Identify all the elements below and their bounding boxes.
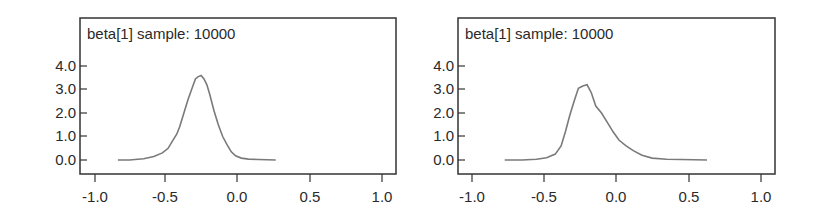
x-tick-label: -1.0 (459, 188, 485, 205)
panel-title: beta[1] sample: 10000 (87, 25, 235, 42)
y-tick-label: 0.0 (55, 151, 76, 168)
y-tick-label: 3.0 (55, 80, 76, 97)
x-axis: -1.0 -0.5 0.0 0.5 1.0 (82, 174, 392, 205)
panel-title: beta[1] sample: 10000 (465, 25, 613, 42)
density-curve (505, 85, 707, 160)
x-axis: -1.0 -0.5 0.0 0.5 1.0 (459, 174, 771, 205)
x-tick-label: 0.0 (227, 188, 248, 205)
x-tick-label: 1.0 (751, 188, 772, 205)
x-tick-label: 0.5 (300, 188, 321, 205)
y-tick-label: 1.0 (55, 127, 76, 144)
y-tick-label: 0.0 (433, 151, 454, 168)
y-tick-label: 4.0 (433, 57, 454, 74)
y-axis: 4.0 3.0 2.0 1.0 0.0 (433, 57, 465, 168)
y-tick-label: 2.0 (55, 104, 76, 121)
y-tick-label: 1.0 (433, 127, 454, 144)
density-panel-right: beta[1] sample: 10000 4.0 3.0 2.0 1.0 0.… (433, 18, 775, 205)
x-tick-label: 0.5 (679, 188, 700, 205)
x-tick-label: -1.0 (82, 188, 108, 205)
density-curve (118, 75, 276, 160)
x-tick-label: 1.0 (372, 188, 393, 205)
density-panel-left: beta[1] sample: 10000 4.0 3.0 2.0 1.0 0.… (55, 18, 396, 205)
y-axis: 4.0 3.0 2.0 1.0 0.0 (55, 57, 87, 168)
chart-canvas: beta[1] sample: 10000 4.0 3.0 2.0 1.0 0.… (0, 0, 818, 219)
y-tick-label: 4.0 (55, 57, 76, 74)
x-tick-label: 0.0 (606, 188, 627, 205)
x-tick-label: -0.5 (152, 188, 178, 205)
x-tick-label: -0.5 (531, 188, 557, 205)
y-tick-label: 3.0 (433, 80, 454, 97)
y-tick-label: 2.0 (433, 104, 454, 121)
